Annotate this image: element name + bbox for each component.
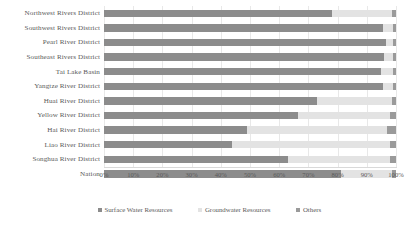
chart-row: Pearl River District bbox=[0, 35, 419, 50]
chart-row: Southwest Rivers District bbox=[0, 21, 419, 36]
bar-track bbox=[104, 79, 396, 94]
bar-segment bbox=[386, 39, 393, 46]
bar-segment bbox=[393, 68, 396, 75]
bar-segment bbox=[104, 97, 317, 104]
bar-segment bbox=[104, 24, 383, 31]
bar-track bbox=[104, 123, 396, 138]
legend-item[interactable]: Groundwater Resources bbox=[198, 206, 270, 214]
bar-segment bbox=[104, 112, 298, 119]
x-tick-label: 50% bbox=[244, 170, 256, 180]
bar-segment bbox=[104, 39, 386, 46]
stacked-bar bbox=[104, 97, 396, 104]
x-tick-label: 100% bbox=[388, 170, 403, 180]
stacked-bar bbox=[104, 53, 396, 60]
legend-swatch-icon bbox=[98, 208, 102, 212]
bar-rows: Northwest Rivers DistrictSouthwest River… bbox=[0, 6, 419, 181]
legend-label: Groundwater Resources bbox=[205, 206, 271, 214]
bar-segment bbox=[392, 97, 396, 104]
category-label: Southwest Rivers District bbox=[0, 24, 104, 32]
stacked-bar bbox=[104, 156, 396, 163]
bar-segment bbox=[381, 68, 393, 75]
bar-track bbox=[104, 21, 396, 36]
bar-segment bbox=[393, 83, 396, 90]
chart-row: Yangtze River District bbox=[0, 79, 419, 94]
bar-segment bbox=[393, 39, 396, 46]
chart-row: Yellow River District bbox=[0, 108, 419, 123]
bar-segment bbox=[104, 141, 232, 148]
bar-track bbox=[104, 35, 396, 50]
bar-track bbox=[104, 152, 396, 167]
x-tick-label: 70% bbox=[302, 170, 314, 180]
x-tick-label: 30% bbox=[186, 170, 198, 180]
legend-item[interactable]: Surface Water Resources bbox=[98, 206, 173, 214]
chart-row: Tai Lake Basin bbox=[0, 64, 419, 79]
bar-segment bbox=[393, 53, 396, 60]
chart-row: Liao River District bbox=[0, 137, 419, 152]
stacked-bar bbox=[104, 10, 396, 17]
chart-row: Huai River District bbox=[0, 94, 419, 109]
bar-segment bbox=[288, 156, 390, 163]
bar-segment bbox=[383, 83, 393, 90]
legend-label: Others bbox=[303, 206, 321, 214]
category-label: Hai River District bbox=[0, 126, 104, 134]
chart-row: Northwest Rivers District bbox=[0, 6, 419, 21]
x-axis: 0%10%20%30%40%50%60%70%80%90%100% bbox=[104, 170, 396, 184]
bar-track bbox=[104, 108, 396, 123]
stacked-bar bbox=[104, 83, 396, 90]
bar-segment bbox=[332, 10, 392, 17]
legend-item[interactable]: Others bbox=[296, 206, 321, 214]
bar-segment bbox=[390, 141, 396, 148]
stacked-bar bbox=[104, 39, 396, 46]
bar-segment bbox=[317, 97, 392, 104]
bar-segment bbox=[104, 53, 384, 60]
stacked-bar-chart: Northwest Rivers DistrictSouthwest River… bbox=[0, 0, 419, 230]
stacked-bar bbox=[104, 68, 396, 75]
x-tick-label: 10% bbox=[127, 170, 139, 180]
stacked-bar bbox=[104, 126, 396, 133]
category-label: Pearl River District bbox=[0, 38, 104, 46]
legend-swatch-icon bbox=[296, 208, 300, 212]
bar-segment bbox=[104, 156, 288, 163]
bar-segment bbox=[104, 126, 247, 133]
bar-segment bbox=[392, 10, 396, 17]
bar-segment bbox=[390, 156, 396, 163]
bar-segment bbox=[104, 68, 381, 75]
bar-segment bbox=[298, 112, 390, 119]
bar-segment bbox=[390, 112, 396, 119]
category-label: Liao River District bbox=[0, 141, 104, 149]
x-tick-label: 20% bbox=[156, 170, 168, 180]
stacked-bar bbox=[104, 141, 396, 148]
x-tick-label: 0% bbox=[100, 170, 109, 180]
bar-segment bbox=[383, 24, 393, 31]
bar-segment bbox=[104, 83, 383, 90]
chart-row: Songhua River District bbox=[0, 152, 419, 167]
bar-track bbox=[104, 94, 396, 109]
category-label: Tai Lake Basin bbox=[0, 68, 104, 76]
bar-segment bbox=[384, 53, 393, 60]
category-label: Huai River District bbox=[0, 97, 104, 105]
bar-segment bbox=[387, 126, 396, 133]
bar-segment bbox=[232, 141, 390, 148]
x-tick-label: 60% bbox=[273, 170, 285, 180]
category-label: Yellow River District bbox=[0, 111, 104, 119]
chart-row: Hai River District bbox=[0, 123, 419, 138]
bar-track bbox=[104, 137, 396, 152]
category-label: Yangtze River District bbox=[0, 82, 104, 90]
bar-segment bbox=[393, 24, 396, 31]
bar-track bbox=[104, 50, 396, 65]
category-label: Songhua River District bbox=[0, 155, 104, 163]
x-tick-label: 90% bbox=[361, 170, 373, 180]
x-tick-label: 80% bbox=[332, 170, 344, 180]
legend-swatch-icon bbox=[198, 208, 202, 212]
plot-area: Northwest Rivers DistrictSouthwest River… bbox=[0, 0, 419, 230]
legend-label: Surface Water Resources bbox=[104, 206, 172, 214]
bar-segment bbox=[247, 126, 387, 133]
category-label: Southeast Rivers District bbox=[0, 53, 104, 61]
chart-legend: Surface Water ResourcesGroundwater Resou… bbox=[0, 206, 419, 214]
x-tick-label: 40% bbox=[215, 170, 227, 180]
chart-row: Southeast Rivers District bbox=[0, 50, 419, 65]
category-label: Nation bbox=[0, 170, 104, 178]
bar-track bbox=[104, 64, 396, 79]
stacked-bar bbox=[104, 24, 396, 31]
category-label: Northwest Rivers District bbox=[0, 9, 104, 17]
